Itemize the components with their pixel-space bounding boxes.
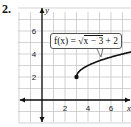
function-label-rest: + 2	[103, 36, 118, 46]
y-tick-label: 2	[32, 73, 37, 82]
y-axis-down-arrow-icon	[40, 117, 45, 122]
function-graph: 246246xy	[0, 0, 131, 127]
x-tick-label: 6	[109, 104, 114, 113]
x-axis-label: x	[126, 103, 131, 113]
function-label: f(x) = √x − 3 + 2	[50, 33, 122, 49]
y-axis-up-arrow-icon	[40, 8, 45, 13]
function-label-lhs: f(x) =	[54, 36, 78, 46]
y-axis-label: y	[44, 5, 49, 15]
x-axis-right-arrow-icon	[125, 98, 130, 103]
function-label-radicand: x − 3	[84, 35, 104, 46]
x-tick-label: 4	[86, 104, 91, 113]
y-tick-label: 4	[32, 50, 37, 59]
x-tick-label: 2	[63, 104, 68, 113]
y-tick-label: 6	[32, 27, 37, 36]
start-point	[74, 75, 78, 79]
radical-sign: √	[78, 36, 83, 46]
x-axis-left-arrow-icon	[20, 98, 25, 103]
